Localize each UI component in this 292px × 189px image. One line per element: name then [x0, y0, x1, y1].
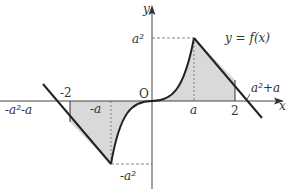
origin-label: O	[139, 87, 149, 101]
tick-label-neg-a2-minus-a: -a²-a	[5, 103, 32, 117]
tick-label-2: 2	[231, 104, 239, 118]
tick-label-neg-2: -2	[60, 86, 72, 100]
tick-label-neg-a: -a	[90, 102, 101, 116]
tick-label-a2: a²	[132, 32, 144, 46]
function-label: y = f(x)	[224, 31, 270, 45]
x-axis-label: x	[279, 99, 286, 113]
tick-label-a: a	[190, 103, 197, 117]
tick-label-a2-plus-a: a²+a	[251, 81, 280, 95]
pointer-a2-plus-a	[247, 94, 250, 99]
shaded-region-right	[152, 38, 235, 101]
y-axis-label: y	[142, 2, 150, 16]
tick-label-neg-a2: -a²	[120, 169, 136, 183]
function-graph: y x O y = f(x) a² -a² a 2 a²+a -2 -a -a²…	[0, 0, 292, 189]
